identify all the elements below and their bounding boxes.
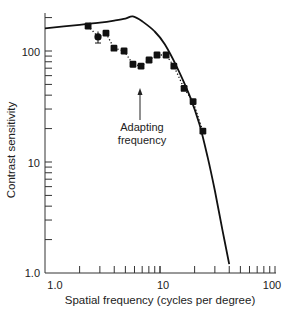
x-tick-label-100: 100: [263, 279, 281, 291]
y-axis-label: Contrast sensitivity: [5, 102, 17, 199]
contrast-sensitivity-chart: 100 10 1.0 1.0 10 100 Spatial frequency …: [0, 0, 288, 312]
data-point: [103, 30, 110, 37]
labels: 100 10 1.0 1.0 10 100 Spatial frequency …: [5, 46, 281, 306]
annotation-line-1: Adapting: [120, 121, 163, 133]
data-point: [130, 61, 137, 68]
data-point: [190, 98, 197, 105]
data-point: [181, 85, 188, 92]
adapting-frequency-arrow: [138, 88, 143, 120]
y-tick-label-10: 10: [28, 157, 40, 169]
x-tick-label-10: 10: [157, 279, 169, 291]
data-point: [154, 52, 161, 59]
data-point: [121, 48, 128, 55]
x-tick-label-1: 1.0: [47, 279, 62, 291]
data-point: [170, 63, 177, 70]
data-point: [85, 23, 92, 30]
adapted-dotted-line: [88, 26, 203, 131]
data-point: [111, 45, 118, 52]
data-point: [138, 63, 145, 70]
y-tick-label-100: 100: [22, 46, 40, 58]
x-axis-label: Spatial frequency (cycles per degree): [65, 294, 256, 306]
y-tick-label-1: 1.0: [25, 267, 40, 279]
data-point: [146, 57, 153, 64]
data-point: [199, 128, 206, 135]
data-point: [94, 33, 101, 40]
annotation-line-2: frequency: [118, 134, 167, 146]
data-point: [163, 52, 170, 59]
